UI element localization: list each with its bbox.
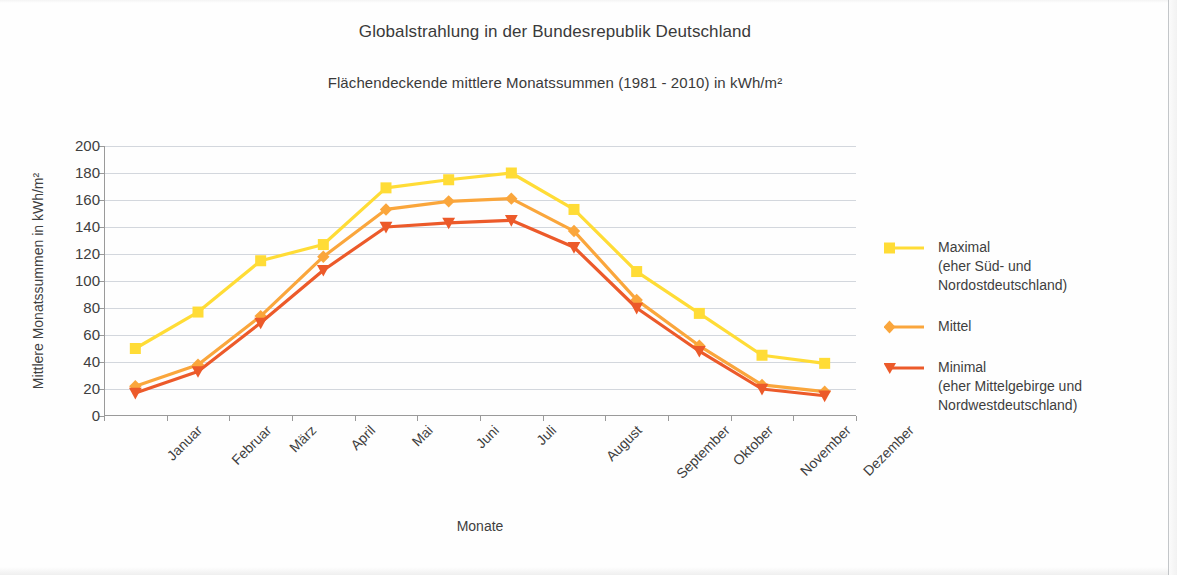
legend-item-minimal[interactable]: Minimal(eher Mittelgebirge undNordwestde…: [884, 358, 1159, 415]
data-point: [318, 239, 329, 250]
x-axis-tick: [668, 416, 669, 421]
x-axis-tick-label: Juni: [472, 422, 501, 451]
x-axis-tick: [104, 416, 105, 421]
x-axis-title: Monate: [104, 518, 856, 534]
x-axis-tick: [417, 416, 418, 421]
x-axis-tick-label: September: [673, 422, 733, 482]
x-axis-tick: [543, 416, 544, 421]
scan-edge-right-line: [1168, 0, 1169, 575]
data-point: [693, 346, 706, 358]
x-axis-tick-label: Februar: [228, 422, 274, 468]
y-axis-tick-label: 0: [40, 407, 100, 424]
x-axis-tick: [355, 416, 356, 421]
y-axis-tick-label: 100: [40, 272, 100, 289]
y-axis-tick-label: 120: [40, 245, 100, 262]
y-axis-tick-label: 80: [40, 299, 100, 316]
series-line: [135, 220, 824, 396]
x-axis-tick-label: August: [603, 422, 645, 464]
x-axis-tick-label: November: [797, 422, 854, 479]
x-axis-tick: [605, 416, 606, 421]
square-marker-icon: [884, 241, 930, 255]
x-axis-tick-label: Juli: [533, 422, 559, 448]
x-axis-tick: [292, 416, 293, 421]
x-axis-tick: [793, 416, 794, 421]
y-axis-tick-label: 160: [40, 191, 100, 208]
data-point: [757, 350, 768, 361]
plot-area: Mittlere Monatssummen in kWh/m² 02040608…: [104, 146, 856, 416]
legend-item-maximal[interactable]: Maximal(eher Süd- und Nordostdeutschland…: [884, 238, 1159, 295]
x-axis-tick-label: Januar: [164, 422, 206, 464]
legend-label: Mittel: [938, 317, 1159, 336]
data-point: [631, 266, 642, 277]
y-axis-tick-label: 180: [40, 164, 100, 181]
x-axis-tick: [731, 416, 732, 421]
x-axis-tick: [856, 416, 857, 421]
data-point: [130, 343, 141, 354]
data-point: [443, 174, 454, 185]
scan-edge-bottom: [0, 567, 1177, 575]
scan-edge-top: [0, 0, 1177, 3]
chart-title: Globalstrahlung in der Bundesrepublik De…: [0, 22, 1110, 42]
chart-page: Globalstrahlung in der Bundesrepublik De…: [0, 0, 1177, 575]
legend-sublabel: (eher Süd- und Nordostdeutschland): [938, 257, 1159, 295]
y-axis-tick-label: 40: [40, 353, 100, 370]
data-point: [569, 204, 580, 215]
x-axis-tick: [229, 416, 230, 421]
legend-label: Minimal: [938, 358, 1159, 377]
data-point: [819, 358, 830, 369]
y-axis-tick-label: 200: [40, 137, 100, 154]
series-lines: [104, 146, 856, 416]
data-point: [255, 255, 266, 266]
legend-sublabel: Nordwestdeutschland): [938, 396, 1159, 415]
chart-subtitle: Flächendeckende mittlere Monatssummen (1…: [0, 74, 1110, 91]
x-axis-tick-label: März: [286, 422, 319, 455]
data-point: [442, 195, 454, 207]
chart-legend: Maximal(eher Süd- und Nordostdeutschland…: [884, 238, 1159, 437]
data-point: [381, 182, 392, 193]
series-minimal: [129, 215, 831, 402]
data-point: [193, 307, 204, 318]
y-axis-tick-label: 140: [40, 218, 100, 235]
y-axis-tick-label: 60: [40, 326, 100, 343]
y-axis-tick-label: 20: [40, 380, 100, 397]
diamond-marker-icon: [884, 320, 930, 334]
x-axis-tick-label: Oktober: [730, 422, 777, 469]
scan-edge-right-band: [1169, 0, 1177, 575]
data-point: [506, 168, 517, 179]
data-point: [129, 388, 142, 400]
legend-label: Maximal: [938, 238, 1159, 257]
triangle-down-marker-icon: [884, 361, 930, 375]
x-axis-tick: [480, 416, 481, 421]
series-maximal: [130, 168, 830, 369]
legend-sublabel: (eher Mittelgebirge und: [938, 377, 1159, 396]
x-axis-tick-label: Mai: [409, 422, 436, 449]
x-axis-tick-label: April: [348, 422, 379, 453]
data-point: [505, 192, 517, 204]
legend-item-mittel[interactable]: Mittel: [884, 317, 1159, 336]
data-point: [694, 308, 705, 319]
x-axis-tick: [167, 416, 168, 421]
